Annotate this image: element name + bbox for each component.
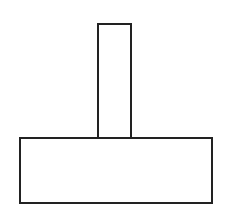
- diagram-canvas: [0, 0, 238, 221]
- base-rectangle: [20, 138, 212, 203]
- inverted-t-diagram: [0, 0, 238, 221]
- stem-rectangle: [98, 24, 131, 138]
